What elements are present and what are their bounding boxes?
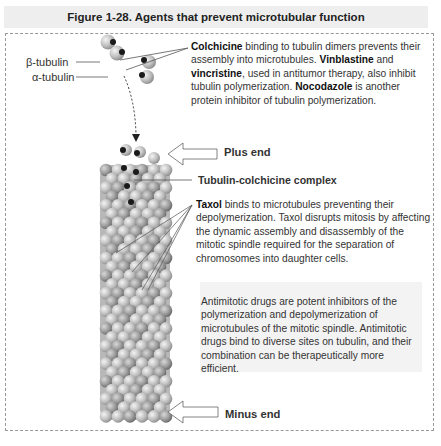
minus-end-arrow-icon [168, 401, 218, 423]
tubulin-colchicine-complex-label: Tubulin-colchicine complex [198, 174, 337, 188]
note-text: and [374, 54, 394, 65]
beta-tubulin-label: β-tubulin [26, 56, 68, 70]
antimitotic-note: Antimitotic drugs are potent inhibitors … [201, 295, 421, 375]
tubulin-dimer-icon [101, 35, 126, 61]
nocodazole-term: Nocodazole [295, 81, 352, 92]
alpha-tubulin-label: α-tubulin [32, 71, 74, 85]
vincristine-term: vincristine [191, 68, 242, 79]
plus-end-arrow-icon [168, 143, 217, 165]
note-text: binds to microtubules preventing their d… [196, 199, 430, 264]
colchicine-note: Colchicine binding to tubulin dimers pre… [191, 40, 431, 107]
taxol-note: Taxol binds to microtubules preventing t… [196, 198, 431, 265]
microtubule-icon [100, 144, 173, 423]
tubulin-dimer-icon [139, 55, 156, 84]
vinblastine-term: Vinblastine [320, 54, 374, 65]
taxol-term: Taxol [196, 199, 222, 210]
minus-end-label: Minus end [225, 408, 280, 422]
colchicine-term: Colchicine [191, 41, 243, 52]
plus-end-label: Plus end [224, 146, 271, 160]
